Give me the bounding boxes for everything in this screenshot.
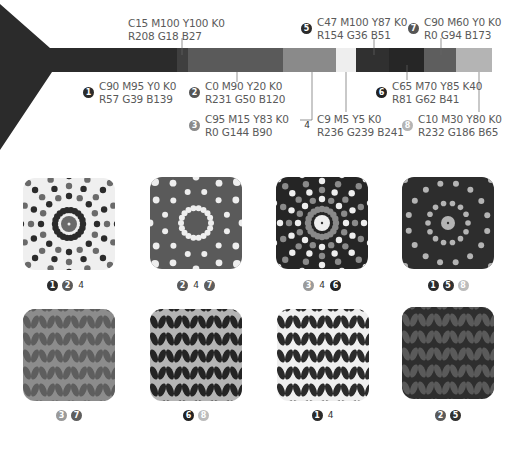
- swatch-number-badge: 1: [83, 87, 94, 98]
- color-badge: 4: [192, 280, 200, 291]
- color-badge: 2: [62, 280, 73, 291]
- tile-label-4: 158: [402, 280, 494, 291]
- tile-label-1: 124: [20, 280, 112, 291]
- tile-label-3: 346: [276, 280, 368, 291]
- rgb-value: R208 G18 B27: [128, 30, 225, 43]
- color-badge: 2: [177, 280, 188, 291]
- color-badge: 3: [303, 280, 314, 291]
- cmyk-value: C15 M100 Y100 K0: [128, 17, 225, 30]
- swatch-number-badge: 6: [376, 87, 387, 98]
- color-badge: 5: [443, 280, 454, 291]
- swatch-number-badge: 8: [402, 120, 413, 131]
- cmyk-value: C0 M90 Y20 K0: [205, 80, 285, 93]
- color-badge: 7: [204, 280, 215, 291]
- rgb-value: R231 G50 B120: [205, 93, 285, 106]
- swatch-number-badge: 7: [408, 23, 419, 34]
- tile-label-5: 37: [23, 410, 115, 421]
- swatch-label-8: 8 C10 M30 Y80 K0 R232 G186 B65: [402, 113, 502, 139]
- swatch-label-2: 2 C0 M90 Y20 K0 R231 G50 B120: [189, 80, 285, 106]
- cmyk-value: C90 M60 Y0 K0: [424, 16, 501, 29]
- color-badge: 4: [318, 280, 326, 291]
- tile-label-6: 68: [150, 410, 242, 421]
- cmyk-value: C95 M15 Y83 K0: [205, 113, 289, 126]
- swatch-label-4: 4 C9 M5 Y5 K0 R236 G239 B241: [303, 113, 404, 139]
- swatch-label-5: 5 C47 M100 Y87 K0 R154 G36 B51: [301, 16, 407, 42]
- rgb-value: R0 G94 B173: [424, 29, 501, 42]
- pattern-tile-leaf-green: [23, 309, 115, 401]
- swatch-number-badge: 2: [189, 87, 200, 98]
- swatch-label-red: C15 M100 Y100 K0 R208 G18 B27: [128, 17, 225, 43]
- swatch-label-6: 6 C65 M70 Y85 K40 R81 G62 B41: [376, 80, 482, 106]
- swatch-number-badge: 4: [303, 120, 311, 131]
- rgb-value: R232 G186 B65: [418, 126, 502, 139]
- color-badge: 1: [312, 410, 323, 421]
- cmyk-value: C47 M100 Y87 K0: [317, 16, 407, 29]
- pattern-tile-leaf-yellow: [150, 309, 242, 401]
- pattern-tile-leaf-burgundy: [402, 307, 494, 399]
- swatch-label-3: 3 C95 M15 Y83 K0 R0 G144 B90: [189, 113, 289, 139]
- color-badge: 7: [71, 410, 82, 421]
- tile-label-7: 14: [277, 410, 369, 421]
- color-badge: 1: [47, 280, 58, 291]
- cmyk-value: C65 M70 Y85 K40: [392, 80, 482, 93]
- color-badge: 8: [198, 410, 209, 421]
- tile-label-8: 25: [402, 410, 494, 421]
- color-badge: 6: [330, 280, 341, 291]
- pattern-tile-circle-dots-purple: [402, 177, 494, 269]
- pattern-tile-circle-dots-pink: [150, 177, 242, 269]
- rgb-value: R81 G62 B41: [392, 93, 482, 106]
- color-badge: 1: [428, 280, 439, 291]
- cmyk-value: C90 M95 Y0 K0: [99, 80, 176, 93]
- rgb-value: R57 G39 B139: [99, 93, 176, 106]
- pattern-tile-radial-dots-brown: [276, 177, 368, 269]
- cmyk-value: C10 M30 Y80 K0: [418, 113, 502, 126]
- rgb-value: R0 G144 B90: [205, 126, 289, 139]
- color-badge: 6: [183, 410, 194, 421]
- pattern-tile-leaf-white: [277, 309, 369, 401]
- swatch-label-1: 1 C90 M95 Y0 K0 R57 G39 B139: [83, 80, 176, 106]
- rgb-value: R154 G36 B51: [317, 29, 407, 42]
- tile-label-2: 247: [150, 280, 242, 291]
- color-badge: 2: [435, 410, 446, 421]
- color-badge: 3: [56, 410, 67, 421]
- pattern-tile-radial-dots-light: [23, 178, 115, 270]
- color-badge: 8: [458, 280, 469, 291]
- cmyk-value: C9 M5 Y5 K0: [317, 113, 404, 126]
- swatch-label-7: 7 C90 M60 Y0 K0 R0 G94 B173: [408, 16, 501, 42]
- swatch-number-badge: 5: [301, 23, 312, 34]
- rgb-value: R236 G239 B241: [317, 126, 404, 139]
- color-badge: 4: [327, 410, 335, 421]
- color-badge: 4: [77, 280, 85, 291]
- color-badge: 5: [450, 410, 461, 421]
- swatch-number-badge: 3: [189, 120, 200, 131]
